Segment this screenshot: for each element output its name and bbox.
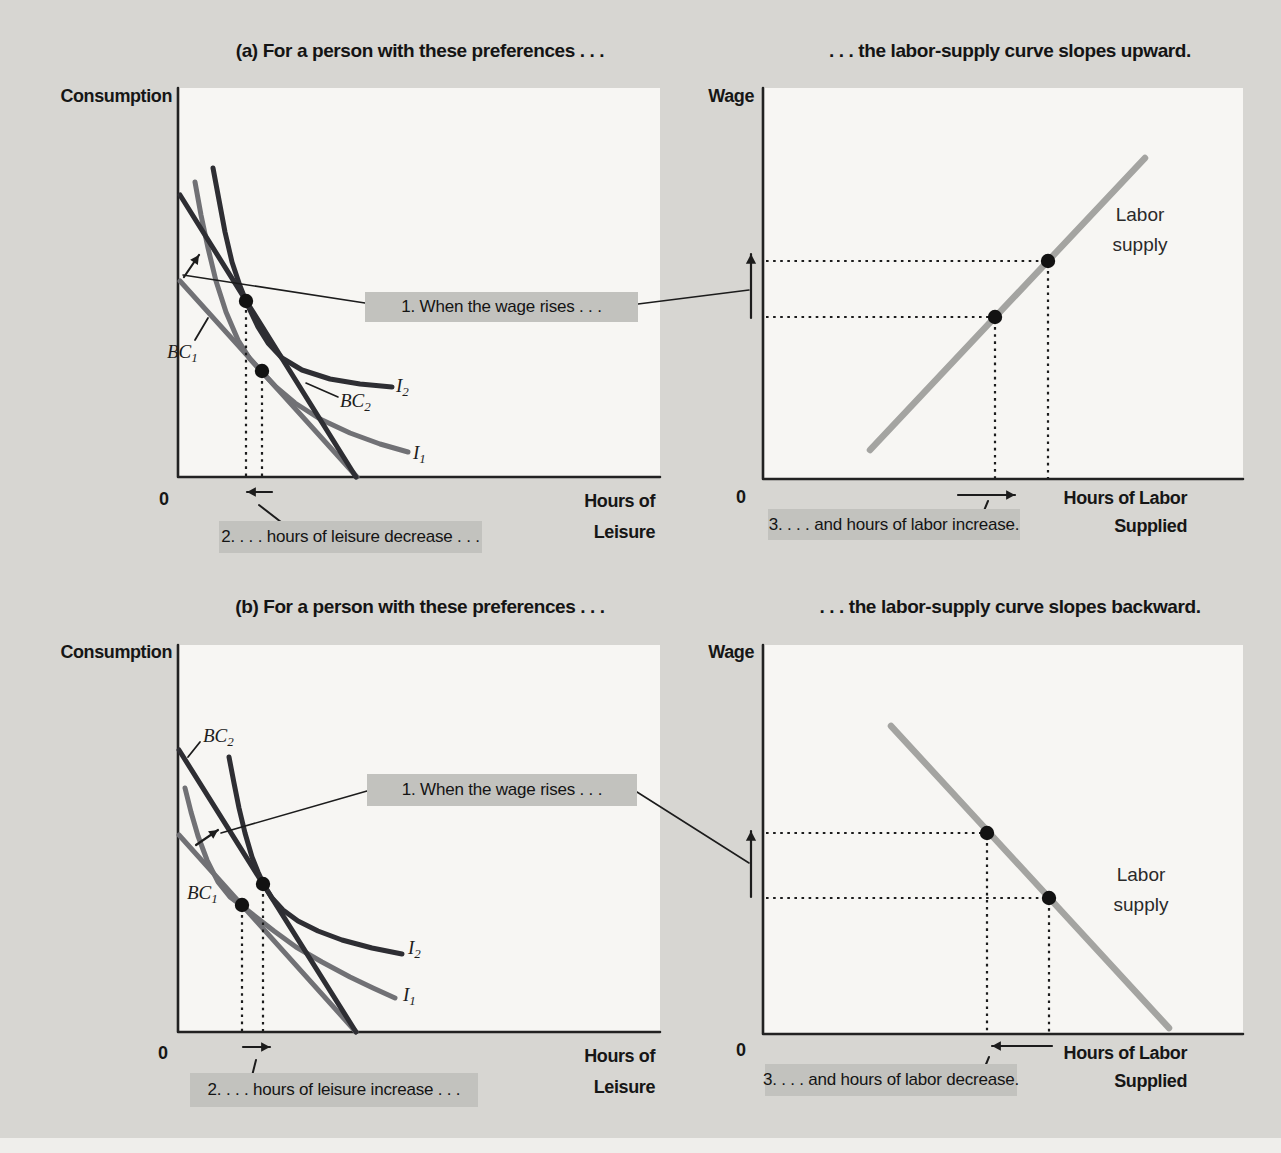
page-edge-strip bbox=[0, 1138, 1281, 1153]
x-axis-label-line1: Hours of bbox=[520, 1041, 655, 1072]
x-axis-label-line1: Hours of Labor bbox=[1005, 1039, 1187, 1067]
callout-labor-increase: 3. . . . and hours of labor increase. bbox=[768, 509, 1020, 540]
panel-b-title-right: . . . the labor-supply curve slopes back… bbox=[760, 596, 1260, 618]
leisure-increase-arrow-head bbox=[261, 1042, 270, 1051]
labor-supply-label-line1: Labor bbox=[1086, 860, 1196, 890]
callout-labor-decrease: 3. . . . and hours of labor decrease. bbox=[765, 1064, 1017, 1096]
x-axis-label: Hours of Leisure bbox=[520, 486, 655, 548]
i1-label: I1 bbox=[413, 442, 426, 467]
origin-label: 0 bbox=[150, 489, 178, 510]
x-axis-label-line1: Hours of Labor bbox=[1005, 484, 1187, 512]
plot-b-right bbox=[763, 645, 1243, 1034]
plot-b-left bbox=[178, 645, 660, 1032]
supply-point bbox=[1041, 254, 1055, 268]
y-axis-label: Consumption bbox=[56, 642, 172, 663]
textbook-figure: (a) For a person with these preferences … bbox=[0, 0, 1281, 1153]
origin-label: 0 bbox=[727, 487, 755, 508]
callout2-tick bbox=[259, 505, 281, 522]
callout-leisure-increase: 2. . . . hours of leisure increase . . . bbox=[190, 1073, 478, 1107]
bc2-label: BC2 bbox=[340, 390, 371, 415]
i2-label: I2 bbox=[408, 937, 421, 962]
supply-point bbox=[1042, 891, 1056, 905]
bc1-label: BC1 bbox=[167, 341, 198, 366]
x-axis-label-line2: Supplied bbox=[1005, 1067, 1187, 1095]
panel-a-title-right: . . . the labor-supply curve slopes upwa… bbox=[760, 40, 1260, 62]
leisure-decrease-arrow-head bbox=[247, 487, 256, 496]
optimum-point bbox=[235, 898, 249, 912]
bc2-label: BC2 bbox=[203, 725, 234, 750]
plot-a-left bbox=[178, 88, 660, 477]
x-axis-label: Hours of Labor Supplied bbox=[1005, 484, 1187, 540]
figure-canvas bbox=[0, 0, 1281, 1153]
y-axis-label: Consumption bbox=[56, 86, 172, 107]
plot-a-right bbox=[763, 88, 1243, 479]
labor-decrease-arrow-head bbox=[992, 1041, 1001, 1050]
labor-supply-label-line1: Labor bbox=[1085, 200, 1195, 230]
optimum-point bbox=[239, 294, 253, 308]
i1-label: I1 bbox=[403, 984, 416, 1009]
callout-leisure-decrease: 2. . . . hours of leisure decrease . . . bbox=[219, 521, 482, 553]
labor-supply-label: Labor supply bbox=[1086, 860, 1196, 920]
callout-when-wage-rises: 1. When the wage rises . . . bbox=[365, 292, 638, 322]
supply-point bbox=[988, 310, 1002, 324]
bc1-label: BC1 bbox=[187, 882, 218, 907]
labor-supply-label: Labor supply bbox=[1085, 200, 1195, 260]
y-axis-label: Wage bbox=[696, 642, 754, 663]
wage-rise-arrow-head bbox=[746, 831, 756, 841]
x-axis-label-line2: Supplied bbox=[1005, 512, 1187, 540]
x-axis-label-line1: Hours of bbox=[520, 486, 655, 517]
x-axis-label: Hours of Leisure bbox=[520, 1041, 655, 1103]
x-axis-label: Hours of Labor Supplied bbox=[1005, 1039, 1187, 1095]
x-axis-label-line2: Leisure bbox=[520, 1072, 655, 1103]
y-axis-label: Wage bbox=[696, 86, 754, 107]
panel-a-title-left: (a) For a person with these preferences … bbox=[170, 40, 670, 62]
labor-supply-label-line2: supply bbox=[1086, 890, 1196, 920]
origin-label: 0 bbox=[727, 1040, 755, 1061]
callout-when-wage-rises: 1. When the wage rises . . . bbox=[367, 774, 637, 806]
i2-label: I2 bbox=[396, 375, 409, 400]
optimum-point bbox=[256, 877, 270, 891]
wage-rise-arrow-head bbox=[746, 254, 756, 264]
origin-label: 0 bbox=[149, 1043, 177, 1064]
panel-b-title-left: (b) For a person with these preferences … bbox=[170, 596, 670, 618]
supply-point bbox=[980, 826, 994, 840]
optimum-point bbox=[255, 364, 269, 378]
labor-supply-label-line2: supply bbox=[1085, 230, 1195, 260]
x-axis-label-line2: Leisure bbox=[520, 517, 655, 548]
